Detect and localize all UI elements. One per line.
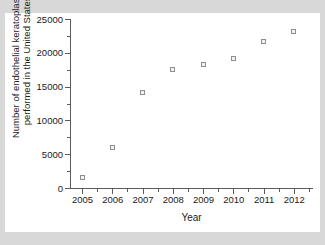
- y-tick-major: [65, 19, 70, 20]
- x-tick-minor: [158, 189, 159, 192]
- y-tick-label: 20000: [37, 48, 63, 58]
- y-tick-label: 0: [58, 184, 63, 194]
- y-tick-label: 10000: [37, 116, 63, 126]
- y-tick-minor: [67, 137, 70, 138]
- x-tick-minor: [248, 189, 249, 192]
- y-axis-title: Number of endothelial keratoplasties per…: [11, 0, 33, 156]
- data-point: [80, 175, 85, 180]
- x-tick-minor: [279, 189, 280, 192]
- data-point: [201, 62, 206, 67]
- y-tick-minor: [67, 171, 70, 172]
- y-tick-minor: [67, 104, 70, 105]
- y-tick-minor: [67, 36, 70, 37]
- x-axis-line: [70, 188, 313, 189]
- x-tick-minor: [309, 189, 310, 192]
- data-point: [140, 90, 145, 95]
- x-tick-minor: [97, 189, 98, 192]
- y-tick-major: [65, 53, 70, 54]
- data-point: [170, 67, 175, 72]
- y-tick-major: [65, 120, 70, 121]
- x-tick-label: 2012: [274, 195, 314, 205]
- data-point: [231, 56, 236, 61]
- y-tick-major: [65, 87, 70, 88]
- y-axis-line: [70, 19, 71, 189]
- y-tick-major: [65, 188, 70, 189]
- y-tick-minor: [67, 70, 70, 71]
- y-tick-label: 25000: [37, 15, 63, 25]
- chart-figure: 0500010000150002000025000 20052006200720…: [0, 0, 325, 245]
- x-tick-minor: [188, 189, 189, 192]
- y-tick-label: 5000: [42, 150, 63, 160]
- x-tick-minor: [127, 189, 128, 192]
- data-point: [261, 39, 266, 44]
- y-axis-title-line-2: performed in the United States: [22, 0, 33, 156]
- y-tick-label: 15000: [37, 82, 63, 92]
- y-tick-major: [65, 154, 70, 155]
- data-point: [291, 29, 296, 34]
- plot-area: [71, 20, 312, 188]
- data-point: [110, 145, 115, 150]
- x-tick-minor: [218, 189, 219, 192]
- x-axis-title: Year: [70, 212, 313, 223]
